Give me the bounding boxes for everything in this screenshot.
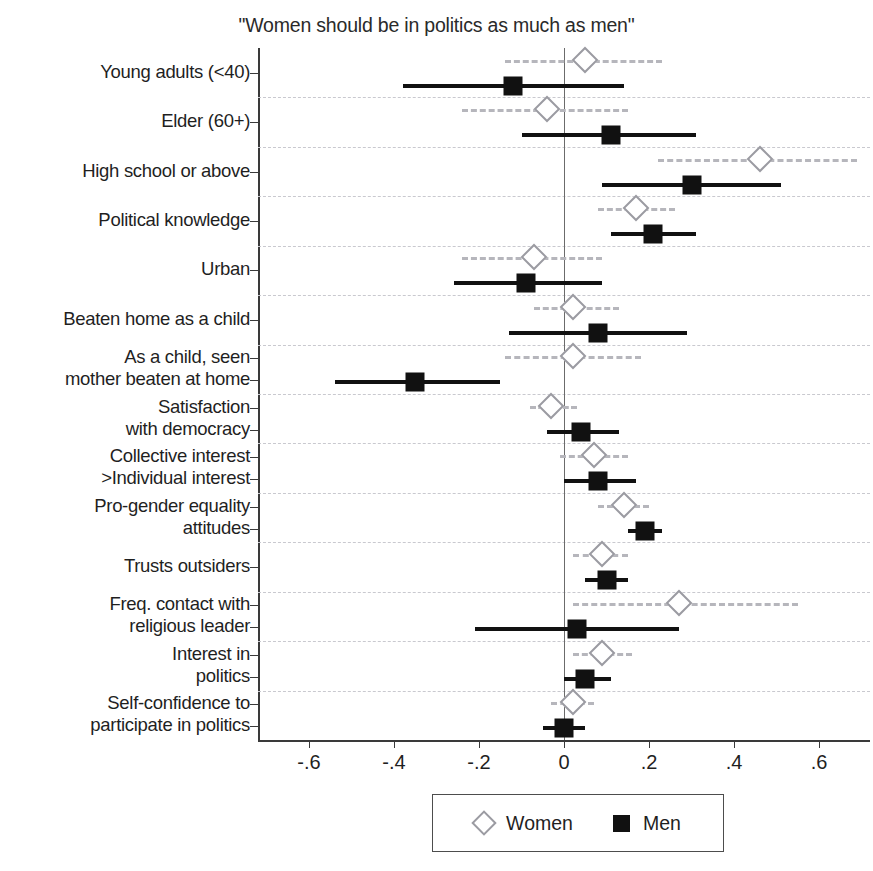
y-axis-label: Trusts outsiders <box>124 555 250 577</box>
y-axis-label: Pro-gender equality attitudes <box>94 495 250 539</box>
legend-label-women: Women <box>506 812 573 835</box>
x-axis-tick <box>394 740 395 748</box>
x-axis-tick-label: 0 <box>558 751 569 774</box>
legend-label-men: Men <box>643 812 681 835</box>
zero-reference-line <box>564 48 565 740</box>
y-axis-tick <box>250 704 258 705</box>
y-axis-tick <box>250 221 258 222</box>
x-axis-tick <box>649 740 650 748</box>
y-axis-label: Young adults (<40) <box>100 61 250 83</box>
x-axis-tick-label: -.6 <box>297 751 320 774</box>
y-axis-label: Elder (60+) <box>161 110 250 132</box>
point-marker-men <box>644 225 663 244</box>
point-marker-men <box>601 126 620 145</box>
y-axis-label: Political knowledge <box>98 209 250 231</box>
y-axis-tick <box>250 655 258 656</box>
point-marker-women <box>538 392 565 419</box>
point-marker-women <box>610 491 637 518</box>
point-marker-women <box>534 96 561 123</box>
y-axis-tick <box>250 122 258 123</box>
filled-square-icon <box>613 815 630 832</box>
x-axis-tick-label: .4 <box>726 751 743 774</box>
y-axis-category-labels: Young adults (<40)Elder (60+)High school… <box>0 48 250 740</box>
y-axis-tick <box>250 380 258 381</box>
x-axis-tick <box>309 740 310 748</box>
point-marker-women <box>572 46 599 73</box>
point-marker-men <box>555 719 574 738</box>
y-axis-tick <box>250 320 258 321</box>
y-axis-label: Urban <box>201 258 250 280</box>
y-axis-tick <box>250 507 258 508</box>
point-marker-men <box>567 620 586 639</box>
y-axis-tick <box>250 726 258 727</box>
x-axis-tick-label: -.4 <box>382 751 405 774</box>
point-marker-men <box>572 422 591 441</box>
y-axis-tick <box>250 457 258 458</box>
legend-entry-men: Men <box>613 812 681 835</box>
y-axis-label: Freq. contact with religious leader <box>109 593 250 637</box>
legend-entry-women: Women <box>475 812 573 835</box>
y-axis-label: Beaten home as a child <box>63 308 250 330</box>
point-marker-women <box>746 145 773 172</box>
y-axis-label: Satisfaction with democracy <box>126 396 250 440</box>
y-axis-tick <box>250 270 258 271</box>
x-axis-tick <box>479 740 480 748</box>
point-marker-women <box>580 442 607 469</box>
point-marker-men <box>682 175 701 194</box>
y-axis-label: As a child, seen mother beaten at home <box>65 346 250 390</box>
y-axis-tick <box>250 430 258 431</box>
point-marker-men <box>504 76 523 95</box>
y-axis-tick <box>250 73 258 74</box>
x-axis-tick <box>564 740 565 748</box>
point-marker-men <box>576 669 595 688</box>
y-axis-tick <box>250 408 258 409</box>
x-axis-tick <box>819 740 820 748</box>
point-marker-men <box>589 472 608 491</box>
x-axis-tick-label: .6 <box>811 751 828 774</box>
y-axis-tick <box>250 358 258 359</box>
open-diamond-icon <box>471 810 496 835</box>
y-axis-tick <box>250 627 258 628</box>
coefficient-plot-figure: "Women should be in politics as much as … <box>0 0 873 871</box>
x-axis-tick-label: .2 <box>641 751 658 774</box>
point-marker-men <box>635 521 654 540</box>
chart-title: "Women should be in politics as much as … <box>0 14 873 37</box>
point-marker-women <box>623 195 650 222</box>
point-marker-men <box>597 571 616 590</box>
y-axis-tick <box>250 479 258 480</box>
point-marker-men <box>589 323 608 342</box>
x-axis-tick <box>734 740 735 748</box>
y-axis-label: Collective interest >Individual interest <box>101 445 250 489</box>
y-axis-tick <box>250 529 258 530</box>
y-axis-label: Interest in politics <box>172 643 250 687</box>
y-axis-tick <box>250 605 258 606</box>
point-marker-women <box>589 541 616 568</box>
point-marker-women <box>665 590 692 617</box>
y-axis-label: High school or above <box>82 160 250 182</box>
point-marker-men <box>406 373 425 392</box>
point-marker-men <box>516 274 535 293</box>
plot-area: -.6-.4-.20.2.4.6 <box>258 48 870 740</box>
point-marker-women <box>521 244 548 271</box>
y-axis-tick <box>250 567 258 568</box>
y-axis-tick <box>250 677 258 678</box>
y-axis-label: Self-confidence to participate in politi… <box>90 692 250 736</box>
x-axis-tick-label: -.2 <box>467 751 490 774</box>
point-marker-women <box>589 639 616 666</box>
chart-legend: Women Men <box>432 794 724 852</box>
y-axis-tick <box>250 172 258 173</box>
